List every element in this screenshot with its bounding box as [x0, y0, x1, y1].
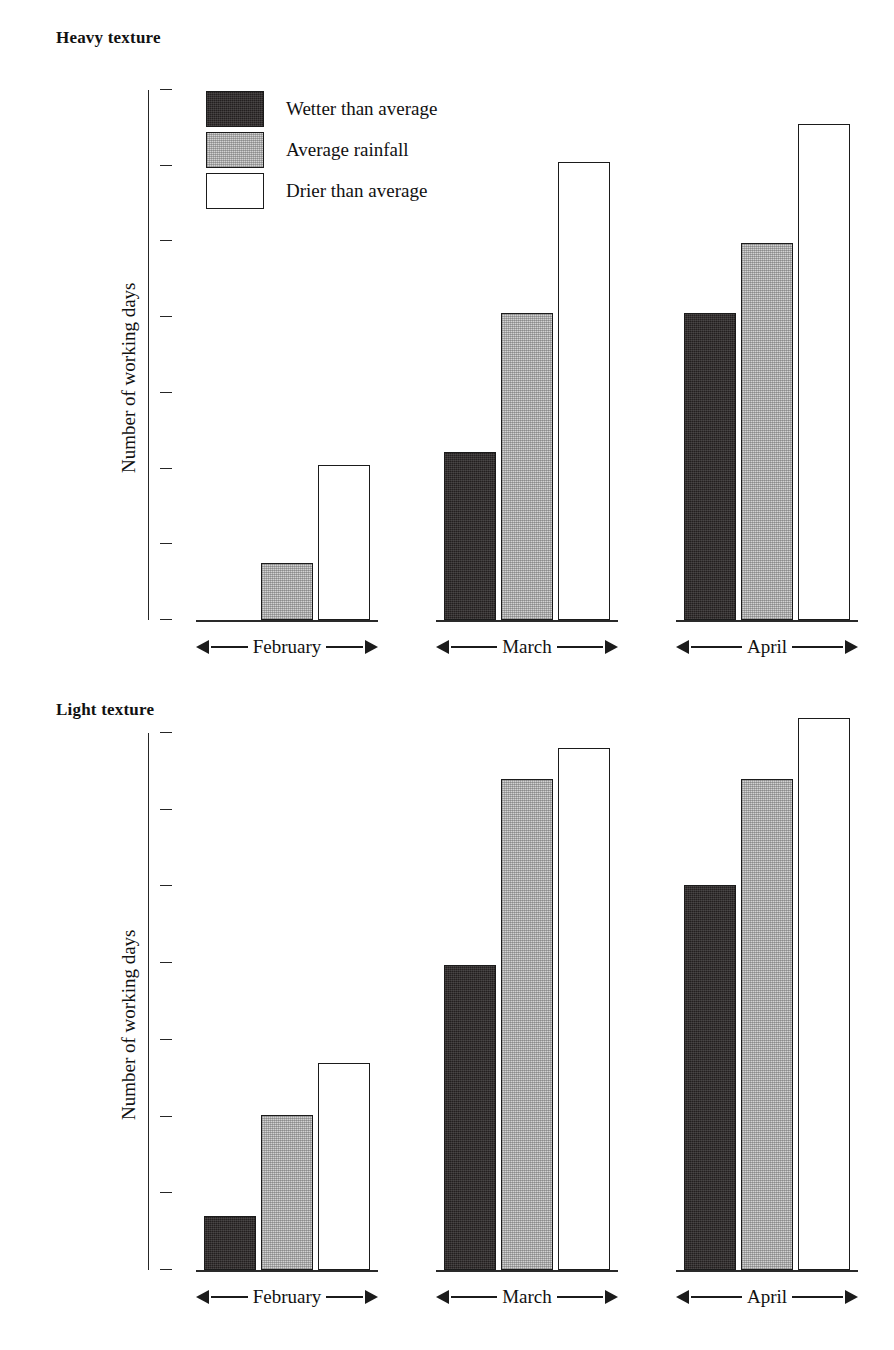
bar-march-drier-than-average [558, 162, 610, 620]
y-tick-mark-20 [160, 885, 172, 886]
y-tick-mark-28 [160, 89, 172, 90]
arrow-left-icon [436, 1290, 449, 1304]
baseline-march [436, 620, 618, 622]
arrow-line-left [451, 646, 497, 648]
bar-april-average-rainfall [741, 779, 793, 1270]
y-tick-mark-24 [160, 165, 172, 166]
bar-april-wetter-than-average [684, 313, 736, 620]
bar-february-wetter-than-average [204, 1216, 256, 1270]
y-tick-mark-12 [160, 1039, 172, 1040]
y-tick-mark-28 [160, 732, 172, 733]
chart-panel-heavy-texture: Heavy texture 2824201612840 Number of wo… [0, 0, 894, 672]
dark-hatch-swatch-icon [206, 91, 264, 127]
plot-area-light: 2824201612840 Number of working days Feb… [0, 720, 894, 1272]
y-tick-mark-8 [160, 1116, 172, 1117]
bar-april-drier-than-average [798, 124, 850, 620]
bar-february-drier-than-average [318, 1063, 370, 1270]
baseline-april [676, 1270, 858, 1272]
legend-label-drier: Drier than average [286, 180, 427, 202]
arrow-right-icon [365, 1290, 378, 1304]
y-axis-spine-heavy [148, 90, 149, 620]
y-tick-mark-4 [160, 543, 172, 544]
y-tick-mark-0 [160, 1269, 172, 1270]
arrow-line-right [326, 1296, 363, 1298]
bar-february-drier-than-average [318, 465, 370, 620]
bar-march-wetter-than-average [444, 965, 496, 1270]
arrow-line-right [326, 646, 363, 648]
arrow-line-right [557, 1296, 603, 1298]
baseline-february [196, 1270, 378, 1272]
arrow-left-icon [196, 640, 209, 654]
bar-march-wetter-than-average [444, 452, 496, 620]
chart-legend: Wetter than average Average rainfall Dri… [206, 88, 437, 211]
legend-item-wetter: Wetter than average [206, 88, 437, 129]
y-axis-title-light: Number of working days [118, 929, 140, 1120]
y-tick-mark-16 [160, 962, 172, 963]
y-tick-mark-12 [160, 392, 172, 393]
bar-february-average-rainfall [261, 563, 313, 620]
arrow-right-icon [845, 640, 858, 654]
legend-item-average: Average rainfall [206, 129, 437, 170]
x-group-label-april: April [676, 1286, 858, 1308]
month-name: March [499, 636, 555, 658]
y-tick-mark-16 [160, 316, 172, 317]
arrow-line-left [211, 646, 248, 648]
legend-item-drier: Drier than average [206, 170, 437, 211]
arrow-left-icon [676, 1290, 689, 1304]
arrow-right-icon [365, 640, 378, 654]
arrow-right-icon [605, 1290, 618, 1304]
bar-march-average-rainfall [501, 779, 553, 1270]
white-swatch-icon [206, 173, 264, 209]
bar-february-average-rainfall [261, 1115, 313, 1270]
plot-area-heavy: 2824201612840 Number of working days Feb… [0, 80, 894, 625]
bar-march-average-rainfall [501, 313, 553, 620]
bar-april-wetter-than-average [684, 885, 736, 1270]
arrow-left-icon [436, 640, 449, 654]
y-tick-mark-8 [160, 468, 172, 469]
x-group-label-march: March [436, 636, 618, 658]
y-tick-mark-20 [160, 240, 172, 241]
arrow-line-right [792, 646, 843, 648]
arrow-right-icon [605, 640, 618, 654]
bar-march-drier-than-average [558, 748, 610, 1270]
y-tick-mark-4 [160, 1192, 172, 1193]
baseline-april [676, 620, 858, 622]
panel-title-heavy: Heavy texture [56, 28, 161, 48]
y-tick-mark-0 [160, 619, 172, 620]
legend-label-average: Average rainfall [286, 139, 409, 161]
arrow-line-left [451, 1296, 497, 1298]
x-group-label-march: March [436, 1286, 618, 1308]
arrow-line-left [691, 1296, 742, 1298]
arrow-left-icon [196, 1290, 209, 1304]
month-name: April [744, 1286, 790, 1308]
x-group-label-february: February [196, 1286, 378, 1308]
y-axis-spine-light [148, 733, 149, 1270]
month-name: April [744, 636, 790, 658]
panel-title-light: Light texture [56, 700, 154, 720]
arrow-line-right [792, 1296, 843, 1298]
x-group-label-april: April [676, 636, 858, 658]
month-name: February [250, 636, 325, 658]
baseline-february [196, 620, 378, 622]
legend-label-wetter: Wetter than average [286, 98, 437, 120]
chart-panel-light-texture: Light texture 2824201612840 Number of wo… [0, 672, 894, 1350]
bar-april-average-rainfall [741, 243, 793, 620]
baseline-march [436, 1270, 618, 1272]
month-name: March [499, 1286, 555, 1308]
arrow-right-icon [845, 1290, 858, 1304]
arrow-line-left [211, 1296, 248, 1298]
arrow-line-left [691, 646, 742, 648]
month-name: February [250, 1286, 325, 1308]
gray-hatch-swatch-icon [206, 132, 264, 168]
y-axis-title-heavy: Number of working days [118, 283, 140, 474]
arrow-left-icon [676, 640, 689, 654]
bar-april-drier-than-average [798, 718, 850, 1270]
x-group-label-february: February [196, 636, 378, 658]
y-tick-mark-24 [160, 809, 172, 810]
arrow-line-right [557, 646, 603, 648]
